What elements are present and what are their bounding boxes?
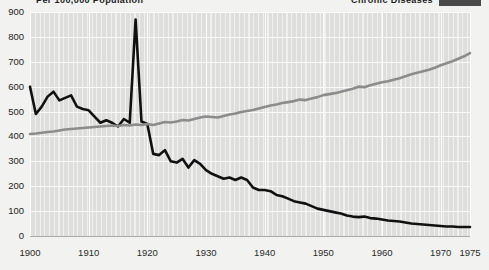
x-axis-line <box>30 236 470 237</box>
x-tick-label-1940: 1940 <box>254 247 275 258</box>
x-tick-label-1970: 1970 <box>430 247 451 258</box>
x-tick-label-1900: 1900 <box>19 247 40 258</box>
y-tick-label-0: 0 <box>19 230 24 241</box>
x-tick-label-1920: 1920 <box>137 247 158 258</box>
y-tick-label-600: 600 <box>8 81 24 92</box>
x-tick-label-1950: 1950 <box>313 247 334 258</box>
series-line-infectious-diseases <box>30 19 470 227</box>
x-tick-label-1960: 1960 <box>371 247 392 258</box>
y-tick-label-200: 200 <box>8 180 24 191</box>
y-tick-label-900: 900 <box>8 6 24 17</box>
y-tick-label-700: 700 <box>8 56 24 67</box>
gridline-x-1975 <box>470 12 471 236</box>
page-title: Per 100,000 Population <box>36 0 143 5</box>
y-tick-label-100: 100 <box>8 205 24 216</box>
x-tick-label-1910: 1910 <box>78 247 99 258</box>
y-tick-label-300: 300 <box>8 155 24 166</box>
y-tick-label-800: 800 <box>8 31 24 42</box>
legend-swatch-chronic-icon <box>439 0 481 6</box>
chart-root: Per 100,000 Population Chronic Diseases … <box>0 0 489 270</box>
x-tick-label-1975: 1975 <box>459 247 480 258</box>
y-tick-label-500: 500 <box>8 106 24 117</box>
plot-area <box>30 12 470 236</box>
y-tick-label-400: 400 <box>8 130 24 141</box>
series-line-chronic-diseases <box>30 53 470 134</box>
x-tick-label-1930: 1930 <box>195 247 216 258</box>
chart-header: Per 100,000 Population Chronic Diseases <box>0 0 489 11</box>
legend-label-chronic: Chronic Diseases <box>351 0 433 5</box>
series-lines <box>30 12 470 236</box>
